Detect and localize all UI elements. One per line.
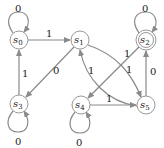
edge-label-s5-s1: 1 xyxy=(88,65,94,76)
diagram-svg: 0 1 0 1 1 0 1 0 1 0 0 1 s0 s1 s2 s3 xyxy=(0,0,164,148)
edge-label-s0-s0: 0 xyxy=(15,3,21,14)
edge-s3-s3 xyxy=(8,111,28,132)
state-s2-accepting: s2 xyxy=(136,30,156,50)
edge-label-s1-s5: 1 xyxy=(126,64,132,75)
state-s5: s5 xyxy=(137,96,155,114)
edge-s0-s0 xyxy=(9,12,29,33)
edge-s1-s3 xyxy=(26,47,74,97)
edge-label-s1-s3: 0 xyxy=(53,65,59,76)
state-s3: s3 xyxy=(10,95,28,113)
state-s4: s4 xyxy=(72,96,90,114)
state-diagram: 0 1 0 1 1 0 1 0 1 0 0 1 s0 s1 s2 s3 xyxy=(0,0,164,148)
edge-label-s4-s5: 1 xyxy=(106,93,112,104)
state-s1: s1 xyxy=(71,31,89,49)
edge-label-s4-s4: 0 xyxy=(76,137,82,148)
edge-s4-s4 xyxy=(70,112,90,133)
edge-label-s5-s2: 0 xyxy=(150,66,156,77)
edge-label-s2-s2: 0 xyxy=(142,3,148,14)
edge-label-s0-s1: 1 xyxy=(46,28,52,39)
edge-label-s3-s0: 1 xyxy=(22,68,28,79)
edge-label-s2-s4: 1 xyxy=(124,48,130,59)
state-s0: s0 xyxy=(10,31,28,49)
edge-label-s3-s3: 0 xyxy=(15,136,21,147)
